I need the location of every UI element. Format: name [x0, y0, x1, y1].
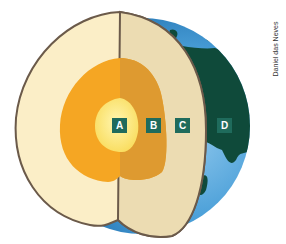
label-b-outer-core: B: [146, 118, 161, 133]
label-a-inner-core: A: [112, 118, 127, 133]
image-credit: Daniel das Neves: [270, 14, 280, 84]
earth-layers-diagram: [0, 0, 286, 244]
label-d-crust: D: [217, 118, 232, 133]
label-c-mantle: C: [175, 118, 190, 133]
credit-text: Daniel das Neves: [272, 22, 279, 77]
